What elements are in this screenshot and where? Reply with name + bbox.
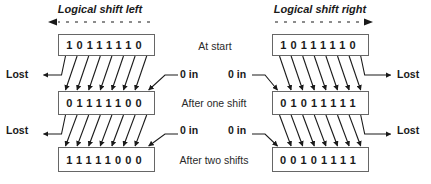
right-register-one-shift: 01011111 (273, 92, 369, 115)
stage-label-two-shifts: After two shifts (180, 154, 249, 166)
direction-arrow-left-icon (48, 19, 150, 26)
zero-in-label-left-1: 0 in (180, 68, 198, 80)
right-bits-one-shift: 01011111 (280, 97, 359, 109)
zero-in-label-left-2: 0 in (180, 124, 198, 136)
zero-in-label-right-2: 0 in (228, 124, 246, 136)
direction-arrow-right-icon (275, 19, 373, 26)
stage-label-start: At start (198, 40, 231, 52)
right-bits-two-shifts: 00101111 (280, 154, 360, 166)
left-register-one-shift: 01111100 (59, 92, 155, 115)
shift-diagram: Logical shift left Logical shift right 1… (0, 0, 431, 184)
lost-label-right-1: Lost (397, 68, 420, 80)
left-bits-start: 10111110 (66, 39, 145, 51)
title-shift-left: Logical shift left (58, 3, 144, 15)
zero-in-label-right-1: 0 in (228, 68, 246, 80)
title-shift-right: Logical shift right (274, 3, 368, 15)
lost-label-right-2: Lost (397, 124, 420, 136)
left-register-two-shifts: 11111000 (59, 148, 155, 172)
left-bits-two-shifts: 11111000 (66, 154, 145, 166)
left-register-start: 10111110 (59, 35, 155, 56)
lost-label-left-2: Lost (6, 124, 29, 136)
right-register-start: 10111110 (273, 35, 369, 56)
right-bits-start: 10111110 (280, 39, 359, 51)
left-bits-one-shift: 01111100 (66, 97, 145, 109)
right-register-two-shifts: 00101111 (273, 148, 369, 172)
lost-label-left-1: Lost (6, 68, 29, 80)
stage-label-one-shift: After one shift (182, 97, 247, 109)
